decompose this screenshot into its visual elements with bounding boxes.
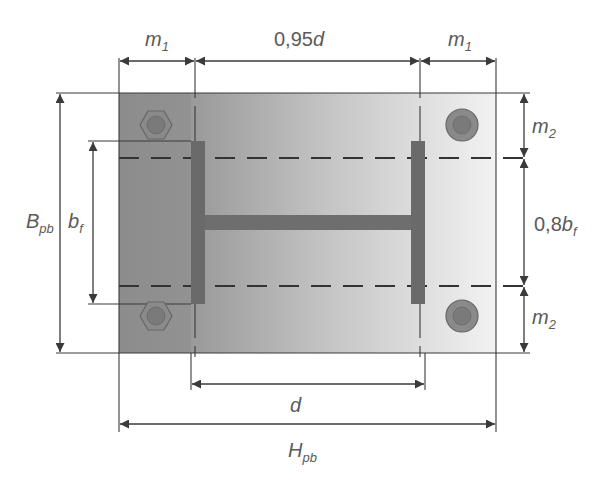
label-m2-top: m2	[532, 115, 557, 141]
label-bf: bf	[68, 210, 84, 236]
label-d: d	[290, 394, 302, 416]
label-08bf: 0,8bf	[534, 213, 578, 239]
label-m1-right: m1	[448, 28, 472, 54]
bolt-top-right	[446, 109, 478, 141]
web	[205, 215, 411, 230]
bolt-bottom-right	[446, 300, 478, 332]
label-Bpb: Bpb	[26, 210, 54, 236]
label-m1-left: m1	[145, 28, 169, 54]
left-flange	[191, 141, 205, 304]
label-095d: 0,95d	[274, 28, 325, 50]
base-plate-diagram: m1 0,95d m1 m2 0,8bf m2 Bpb bf d Hpb	[0, 0, 599, 491]
right-flange	[411, 141, 425, 304]
label-Hpb: Hpb	[288, 439, 317, 465]
label-m2-bottom: m2	[532, 306, 557, 332]
